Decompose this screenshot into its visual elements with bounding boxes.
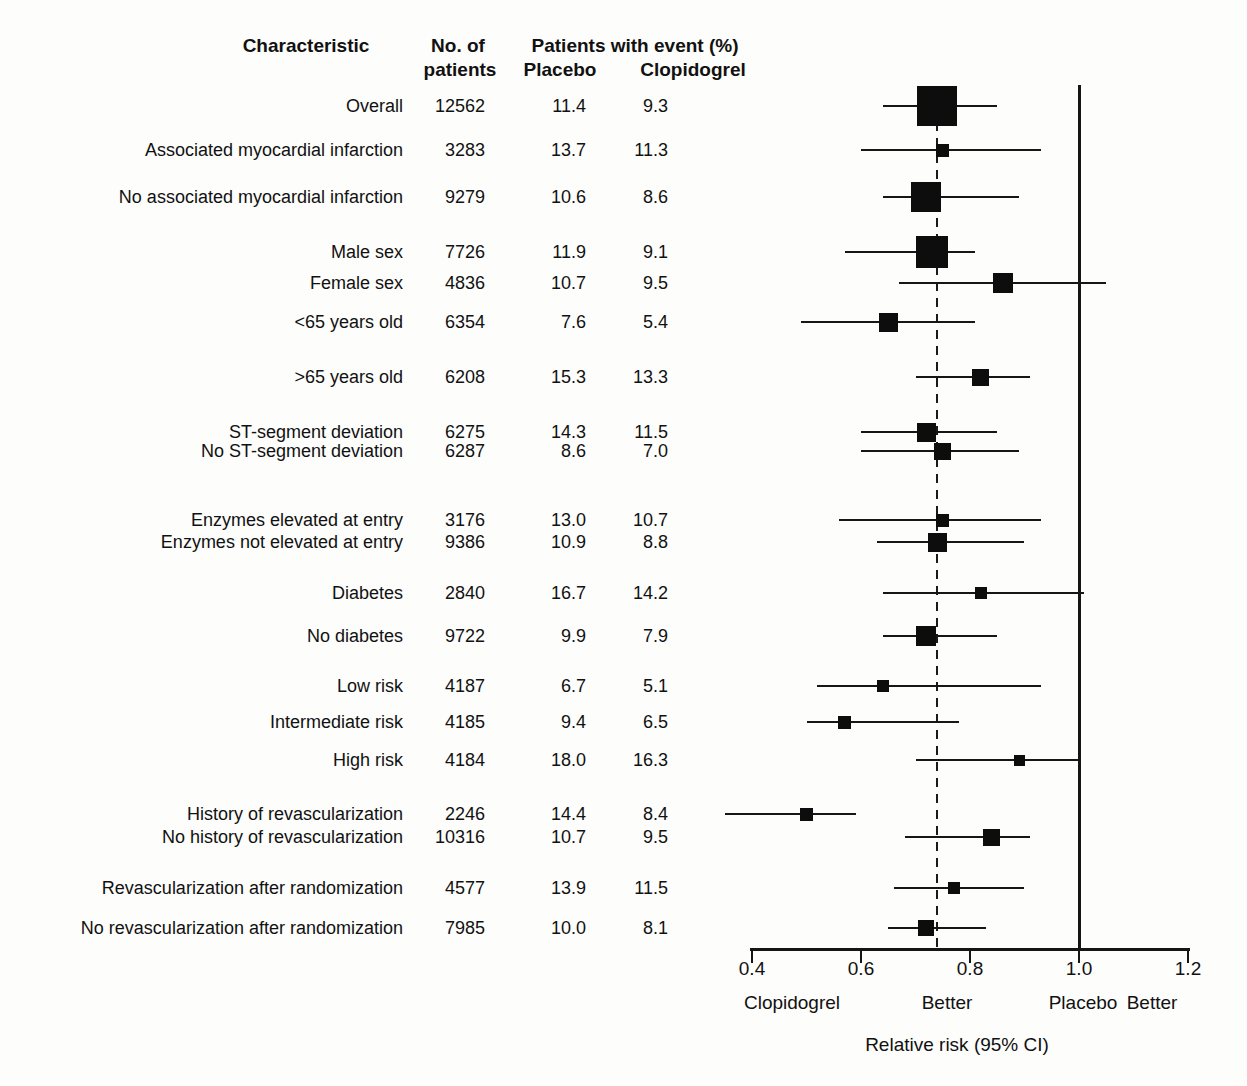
- point-estimate-square: [983, 829, 1000, 846]
- column-header-n-line2: patients: [424, 58, 497, 82]
- ci-line: [845, 251, 976, 253]
- ci-line: [861, 149, 1041, 151]
- row-clopidogrel-pct: 8.1: [0, 915, 668, 941]
- point-estimate-square: [877, 680, 889, 692]
- point-estimate-square: [934, 443, 951, 460]
- x-axis-tick-label: 0.4: [739, 958, 765, 980]
- point-estimate-square: [800, 808, 813, 821]
- row-clopidogrel-pct: 16.3: [0, 747, 668, 773]
- column-header-characteristic: Characteristic: [243, 34, 370, 58]
- row-clopidogrel-pct: 6.5: [0, 709, 668, 735]
- x-axis-title: Relative risk (95% CI): [865, 1034, 1049, 1056]
- row-clopidogrel-pct: 5.4: [0, 309, 668, 335]
- x-axis-tick-label: 0.6: [848, 958, 874, 980]
- point-estimate-square: [916, 236, 948, 268]
- point-estimate-square: [916, 626, 936, 646]
- column-header-clopidogrel: Clopidogrel: [640, 58, 746, 82]
- point-estimate-square: [993, 273, 1013, 293]
- point-estimate-square: [936, 144, 949, 157]
- x-axis-tick-label: 1.2: [1175, 958, 1201, 980]
- point-estimate-square: [948, 882, 960, 894]
- row-clopidogrel-pct: 9.3: [0, 93, 668, 119]
- column-header-events: Patients with event (%): [532, 34, 739, 58]
- point-estimate-square: [936, 514, 949, 527]
- row-clopidogrel-pct: 11.3: [0, 137, 668, 163]
- point-estimate-square: [917, 423, 936, 442]
- column-header-n-line1: No. of: [431, 34, 485, 58]
- forest-plot-figure: Characteristic No. of patients Patients …: [0, 0, 1247, 1086]
- row-clopidogrel-pct: 11.5: [0, 875, 668, 901]
- ci-line: [883, 635, 997, 637]
- ci-line: [877, 541, 1024, 543]
- point-estimate-square: [1014, 755, 1025, 766]
- row-clopidogrel-pct: 8.6: [0, 184, 668, 210]
- reference-line-1.0: [1078, 85, 1081, 948]
- point-estimate-square: [879, 313, 898, 332]
- point-estimate-square: [917, 86, 957, 126]
- row-clopidogrel-pct: 9.5: [0, 270, 668, 296]
- x-axis-tick-label: 0.8: [957, 958, 983, 980]
- axis-annotation-placebo: Placebo: [1049, 992, 1118, 1014]
- ci-line: [888, 927, 986, 929]
- axis-annotation-better-right: Better: [1127, 992, 1178, 1014]
- point-estimate-square: [911, 182, 941, 212]
- point-estimate-square: [928, 533, 947, 552]
- row-clopidogrel-pct: 7.0: [0, 438, 668, 464]
- row-clopidogrel-pct: 5.1: [0, 673, 668, 699]
- point-estimate-square: [975, 587, 987, 599]
- row-clopidogrel-pct: 13.3: [0, 364, 668, 390]
- point-estimate-square: [918, 920, 934, 936]
- ci-line: [883, 196, 1019, 198]
- ci-line: [817, 685, 1040, 687]
- x-axis-tick-label: 1.0: [1066, 958, 1092, 980]
- row-clopidogrel-pct: 9.1: [0, 239, 668, 265]
- row-clopidogrel-pct: 8.8: [0, 529, 668, 555]
- point-estimate-square: [972, 369, 989, 386]
- row-clopidogrel-pct: 7.9: [0, 623, 668, 649]
- ci-line: [725, 813, 856, 815]
- axis-annotation-clopidogrel: Clopidogrel: [744, 992, 840, 1014]
- ci-line: [905, 836, 1030, 838]
- ci-line: [807, 721, 960, 723]
- axis-annotation-better-left: Better: [922, 992, 973, 1014]
- row-clopidogrel-pct: 14.2: [0, 580, 668, 606]
- row-clopidogrel-pct: 9.5: [0, 824, 668, 850]
- column-header-placebo: Placebo: [524, 58, 597, 82]
- point-estimate-square: [838, 716, 851, 729]
- ci-line: [916, 759, 1080, 761]
